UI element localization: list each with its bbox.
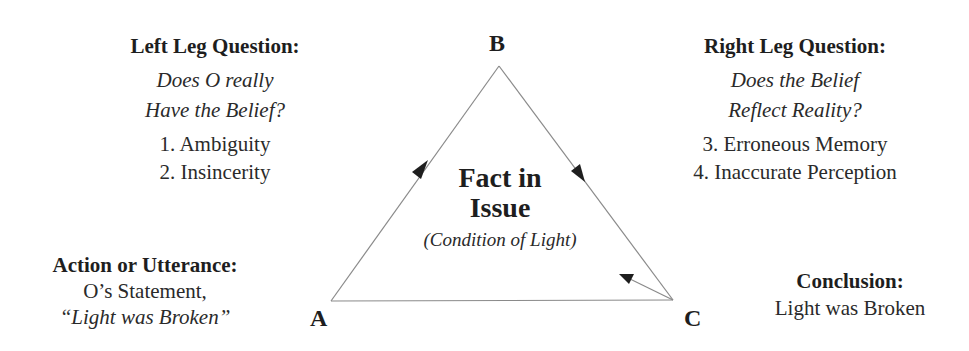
action-or-utterance: Action or Utterance: O’s Statement, “Lig… (20, 252, 270, 330)
left-leg-item: 1. Ambiguity (110, 130, 320, 158)
right-leg-heading: Right Leg Question: (660, 33, 930, 59)
base-edge (331, 300, 673, 301)
fact-in-issue-subtitle: (Condition of Light) (400, 227, 600, 253)
action-line1: O’s Statement, (20, 278, 270, 304)
action-line2: “Light was Broken” (20, 304, 270, 330)
right-leg-question: Right Leg Question: Does the Belief Refl… (660, 33, 930, 186)
right-leg-item: 4. Inaccurate Perception (660, 158, 930, 186)
right-leg-question-line1: Does the Belief (660, 65, 930, 95)
conclusion: Conclusion: Light was Broken (745, 268, 955, 322)
right-leg-question-line2: Reflect Reality? (660, 95, 930, 125)
left-leg-question-line2: Have the Belief? (110, 95, 320, 125)
left-leg-question-line1: Does O really (110, 65, 320, 95)
left-leg-item: 2. Insincerity (110, 158, 320, 186)
fact-in-issue-title-line2: Issue (400, 193, 600, 223)
conclusion-heading: Conclusion: (745, 268, 955, 294)
inference-edge (628, 278, 673, 300)
action-heading: Action or Utterance: (20, 252, 270, 278)
vertex-label-c: C (684, 305, 701, 332)
left-leg-heading: Left Leg Question: (110, 33, 320, 59)
vertex-label-a: A (310, 305, 327, 332)
fact-in-issue: Fact in Issue (Condition of Light) (400, 163, 600, 253)
inference-arrow-icon (619, 274, 634, 284)
right-leg-item: 3. Erroneous Memory (660, 130, 930, 158)
left-leg-question: Left Leg Question: Does O really Have th… (110, 33, 320, 186)
conclusion-line1: Light was Broken (745, 294, 955, 322)
vertex-label-b: B (489, 30, 505, 57)
fact-in-issue-title-line1: Fact in (400, 163, 600, 193)
